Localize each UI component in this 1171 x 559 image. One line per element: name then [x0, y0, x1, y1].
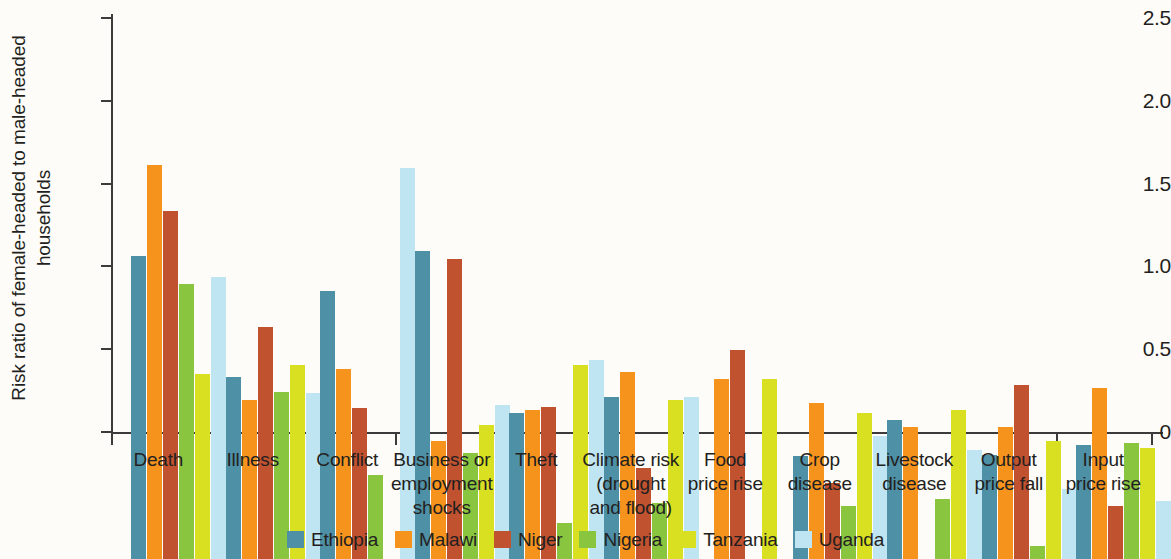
legend-swatch-icon — [395, 531, 412, 548]
y-axis-tick — [101, 183, 112, 185]
x-axis-tick — [111, 434, 113, 445]
legend-item[interactable]: Niger — [494, 530, 562, 549]
bar-chart: Risk ratio of female-headed to male-head… — [0, 0, 1171, 559]
chart-legend: EthiopiaMalawiNigerNigeriaTanzaniaUganda — [0, 530, 1171, 549]
bar — [320, 291, 335, 559]
legend-label: Ethiopia — [311, 530, 378, 549]
legend-swatch-icon — [287, 531, 304, 548]
legend-item[interactable]: Malawi — [395, 530, 477, 549]
y-axis-tick — [101, 265, 112, 267]
y-axis-tick — [101, 431, 112, 433]
legend-item[interactable]: Nigeria — [579, 530, 662, 549]
bar-group — [226, 145, 322, 559]
legend-label: Nigeria — [603, 530, 662, 549]
legend-label: Uganda — [819, 530, 884, 549]
x-axis-category-label-line: price rise — [1043, 472, 1163, 496]
bar — [147, 165, 162, 559]
bar — [179, 284, 194, 559]
legend-swatch-icon — [795, 531, 812, 548]
legend-label: Tanzania — [703, 530, 777, 549]
bar — [258, 327, 273, 559]
y-axis-title-line-1: Risk ratio of female-headed to male-head… — [8, 35, 29, 400]
bar-group — [131, 145, 227, 559]
x-axis-category-label-line: shocks — [382, 496, 502, 520]
legend-item[interactable]: Uganda — [795, 530, 884, 549]
x-axis-category-label-line: employment — [382, 472, 502, 496]
bar-group — [982, 145, 1078, 559]
y-axis-tick-label: 2.5 — [1075, 7, 1171, 28]
bar-group — [698, 145, 794, 559]
bar — [131, 256, 146, 559]
y-axis-tick-label: 2.0 — [1075, 90, 1171, 111]
bar-group — [793, 145, 889, 559]
x-axis-category-label-line: and flood) — [571, 496, 691, 520]
y-axis-title-line-2: households — [31, 35, 56, 400]
legend-swatch-icon — [494, 531, 511, 548]
bar — [211, 277, 226, 559]
legend-swatch-icon — [679, 531, 696, 548]
y-axis-line — [111, 14, 113, 434]
legend-label: Niger — [518, 530, 562, 549]
legend-item[interactable]: Ethiopia — [287, 530, 378, 549]
y-axis-title: Risk ratio of female-headed to male-head… — [0, 0, 62, 436]
y-axis-tick — [101, 348, 112, 350]
legend-label: Malawi — [419, 530, 477, 549]
y-axis-tick — [101, 17, 112, 19]
bar — [163, 211, 178, 559]
x-axis-category-label: Inputprice rise — [1043, 448, 1163, 496]
bar-group — [887, 145, 983, 559]
y-axis-tick — [101, 100, 112, 102]
bar-group — [1076, 145, 1171, 559]
legend-item[interactable]: Tanzania — [679, 530, 777, 549]
legend-swatch-icon — [579, 531, 596, 548]
x-axis-category-label-line: Input — [1043, 448, 1163, 472]
